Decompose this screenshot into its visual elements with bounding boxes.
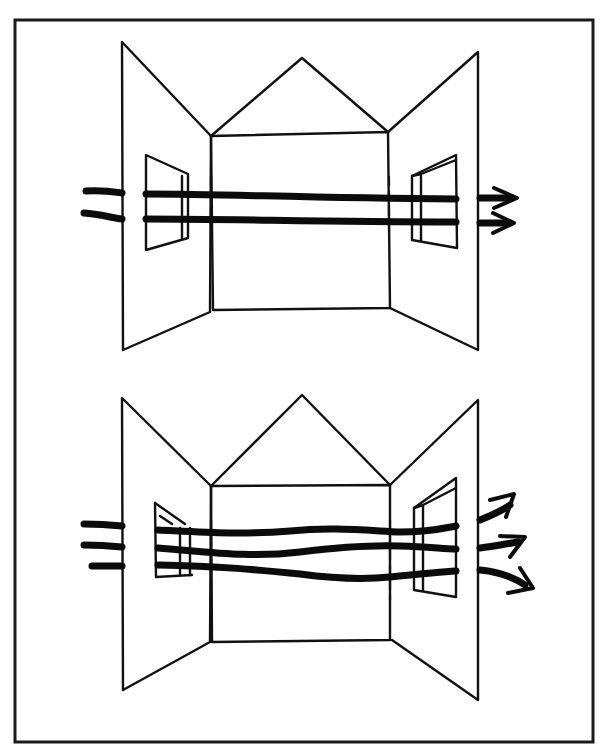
airflow-line-2 bbox=[146, 219, 456, 222]
airflow-line-4-in bbox=[84, 545, 122, 547]
left-window-sash bbox=[155, 503, 185, 524]
airflow-line-1-in bbox=[86, 191, 122, 193]
roof-peak bbox=[211, 395, 390, 486]
left-wall bbox=[122, 398, 211, 690]
diagram-bottom bbox=[84, 395, 533, 700]
airflow-line-4-out bbox=[480, 542, 518, 548]
airflow-line-3-in bbox=[84, 524, 122, 526]
airflow-line-5 bbox=[158, 565, 456, 578]
airflow-line-4 bbox=[158, 546, 456, 555]
airflow-line-1 bbox=[146, 194, 456, 199]
figure-frame bbox=[15, 20, 593, 742]
back-wall bbox=[211, 485, 390, 642]
illustration-canvas bbox=[0, 0, 607, 753]
airflow-line-5-out bbox=[480, 570, 525, 585]
diagram-top bbox=[84, 42, 517, 350]
airflow-line-3 bbox=[158, 526, 456, 533]
right-window bbox=[414, 478, 456, 597]
airflow-line-2-in bbox=[84, 213, 122, 219]
ventilation-figure bbox=[0, 0, 607, 753]
roof-peak bbox=[211, 58, 388, 136]
